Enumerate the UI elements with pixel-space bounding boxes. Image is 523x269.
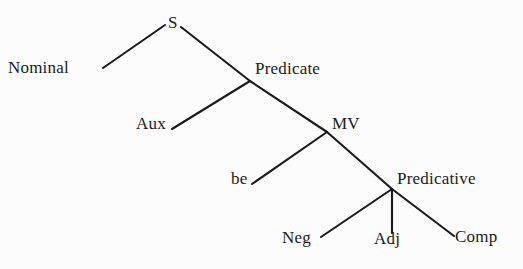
edge-mv-be [252, 132, 327, 184]
tree-edges-layer [0, 0, 523, 269]
node-label-nominal: Nominal [8, 59, 69, 76]
node-label-aux: Aux [136, 115, 166, 132]
node-label-adj: Adj [374, 230, 400, 247]
node-label-comp: Comp [455, 228, 497, 245]
edge-predicative-comp [392, 189, 454, 236]
node-label-predicate: Predicate [255, 60, 320, 77]
edge-s-nominal [103, 25, 165, 68]
node-label-mv: MV [332, 115, 360, 132]
node-label-neg: Neg [282, 229, 311, 246]
edge-predicate-mv [250, 81, 327, 132]
node-label-predicative: Predicative [397, 170, 476, 187]
edge-predicate-aux [172, 81, 250, 129]
edge-mv-predicative [327, 132, 392, 189]
edge-s-predicate [181, 27, 250, 81]
node-label-s: S [168, 14, 178, 31]
node-label-be: be [231, 170, 247, 187]
syntax-tree-diagram: S Nominal Predicate Aux MV be Predicativ… [0, 0, 523, 269]
